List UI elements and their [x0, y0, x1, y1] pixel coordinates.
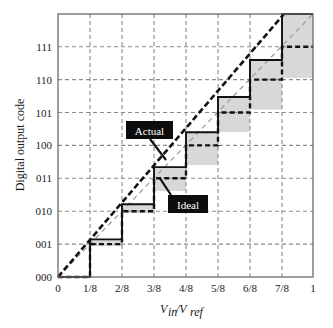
x-tick-4-8: 4/8 [179, 282, 194, 294]
y-tick-100: 100 [36, 139, 53, 151]
x-tick-6-8: 6/8 [243, 282, 258, 294]
x-tick-5-8: 5/8 [211, 282, 226, 294]
x-axis-title: V in /V ref [160, 302, 205, 319]
y-tick-110: 110 [36, 74, 53, 86]
x-tick-0: 0 [55, 282, 61, 294]
y-tick-011: 011 [36, 172, 52, 184]
adc-transfer-curve-figure: Actual Ideal 000 001 010 011 100 101 110… [0, 0, 333, 328]
y-tick-111: 111 [36, 41, 52, 53]
x-tick-labels: 0 1/8 2/8 3/8 4/8 5/8 6/8 7/8 1 [55, 282, 316, 294]
y-axis-title: Digital output code [13, 99, 27, 192]
x-tick-2-8: 2/8 [115, 282, 130, 294]
shade-step-5 [218, 97, 250, 132]
y-tick-010: 010 [36, 205, 53, 217]
x-tick-7-8: 7/8 [275, 282, 290, 294]
callout-actual-label: Actual [135, 125, 164, 137]
shade-step-6 [250, 60, 282, 110]
y-tick-101: 101 [36, 107, 53, 119]
shade-step-4 [186, 132, 218, 165]
x-axis-title-sub-ref: ref [190, 305, 205, 319]
y-tick-000: 000 [36, 271, 53, 283]
x-tick-1: 1 [310, 282, 316, 294]
y-tick-001: 001 [36, 238, 53, 250]
y-tick-labels: 000 001 010 011 100 101 110 111 [36, 41, 53, 283]
callout-ideal-label: Ideal [177, 199, 199, 211]
x-axis-title-slash-v: /V [175, 302, 188, 316]
x-tick-3-8: 3/8 [147, 282, 162, 294]
x-tick-1-8: 1/8 [83, 282, 98, 294]
